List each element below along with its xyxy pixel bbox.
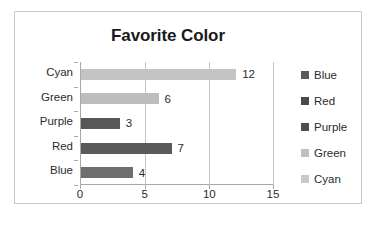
bar-cyan: [81, 69, 236, 80]
bar-value-green: 6: [165, 93, 171, 105]
bar-blue: [81, 167, 133, 178]
legend-swatch-green: [301, 149, 309, 157]
y-axis-label-purple: Purple: [13, 115, 73, 127]
bar-green: [81, 93, 159, 104]
y-axis-label-cyan: Cyan: [13, 66, 73, 78]
x-axis-label-10: 10: [194, 188, 224, 200]
plot-area: 12 6 3 7 4: [80, 62, 274, 185]
legend-item-cyan: Cyan: [301, 166, 361, 192]
bar-row-purple: 3: [81, 111, 132, 136]
bar-row-blue: 4: [81, 160, 145, 185]
y-axis-tick: [74, 160, 78, 161]
chart-container: Favorite Color Cyan Green Purple Red Blu…: [14, 11, 362, 204]
legend-label-blue: Blue: [314, 69, 337, 81]
gridline-15: [273, 62, 274, 185]
bar-value-purple: 3: [126, 117, 132, 129]
legend-item-blue: Blue: [301, 62, 361, 88]
legend-swatch-blue: [301, 71, 309, 79]
legend-item-purple: Purple: [301, 114, 361, 140]
legend-label-green: Green: [314, 147, 346, 159]
bar-row-cyan: 12: [81, 62, 255, 87]
legend-swatch-cyan: [301, 175, 309, 183]
y-axis-tick: [74, 185, 78, 186]
chart-title: Favorite Color: [43, 26, 293, 46]
x-axis-label-0: 0: [65, 188, 95, 200]
bar-row-red: 7: [81, 136, 184, 161]
legend-label-cyan: Cyan: [314, 173, 341, 185]
bar-row-green: 6: [81, 87, 171, 112]
bar-value-red: 7: [178, 142, 184, 154]
legend-item-red: Red: [301, 88, 361, 114]
y-axis-tick: [74, 111, 78, 112]
legend-label-purple: Purple: [314, 121, 347, 133]
bar-purple: [81, 118, 120, 129]
chart-legend: Blue Red Purple Green Cyan: [301, 62, 361, 192]
y-axis-tick: [74, 136, 78, 137]
legend-swatch-red: [301, 97, 309, 105]
y-axis-tick: [74, 87, 78, 88]
bar-red: [81, 143, 172, 154]
y-axis-labels: Cyan Green Purple Red Blue: [15, 62, 73, 185]
bar-value-cyan: 12: [242, 68, 255, 80]
bar-value-blue: 4: [139, 167, 145, 179]
legend-label-red: Red: [314, 95, 335, 107]
y-axis-label-green: Green: [13, 91, 73, 103]
y-axis-label-blue: Blue: [13, 164, 73, 176]
y-axis-label-red: Red: [13, 140, 73, 152]
legend-item-green: Green: [301, 140, 361, 166]
y-axis-tick: [74, 62, 78, 63]
x-axis-label-15: 15: [258, 188, 288, 200]
x-axis-label-5: 5: [130, 188, 160, 200]
legend-swatch-purple: [301, 123, 309, 131]
